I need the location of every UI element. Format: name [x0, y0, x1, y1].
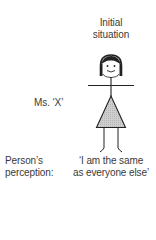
dress-icon [97, 96, 126, 128]
perception-label-line2: perception: [5, 167, 53, 179]
face-icon [103, 65, 119, 77]
perception-quote-line1: ‘I am the same [69, 155, 153, 167]
hair-icon [101, 55, 122, 76]
perception-quote-line2: as everyone else’ [69, 167, 153, 179]
perception-label: Person’s perception: [5, 155, 53, 179]
legs-icon [100, 128, 122, 153]
perception-quote: ‘I am the same as everyone else’ [69, 155, 153, 179]
perception-label-line1: Person’s [5, 155, 53, 167]
person-name-label: Ms. ‘X’ [34, 97, 63, 108]
